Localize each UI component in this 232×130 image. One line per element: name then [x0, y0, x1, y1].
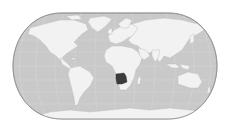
world-locator-map	[0, 0, 232, 130]
map-svg	[0, 0, 232, 130]
